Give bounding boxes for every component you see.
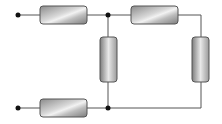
resistor-r1 [40, 6, 87, 24]
resistor-r3 [100, 37, 117, 82]
resistor-r4 [192, 37, 209, 82]
terminal-bottom-icon [16, 106, 21, 111]
terminal-top-icon [16, 13, 21, 18]
junction-top-icon [106, 13, 111, 18]
junction-bottom-icon [106, 106, 111, 111]
wire-r4-to-bottom [87, 82, 201, 108]
resistors [40, 6, 209, 117]
circuit-diagram [0, 0, 222, 124]
nodes [16, 13, 111, 111]
resistor-r5 [40, 99, 87, 117]
wire-r2-to-r4 [178, 15, 201, 37]
resistor-r2 [131, 6, 178, 24]
